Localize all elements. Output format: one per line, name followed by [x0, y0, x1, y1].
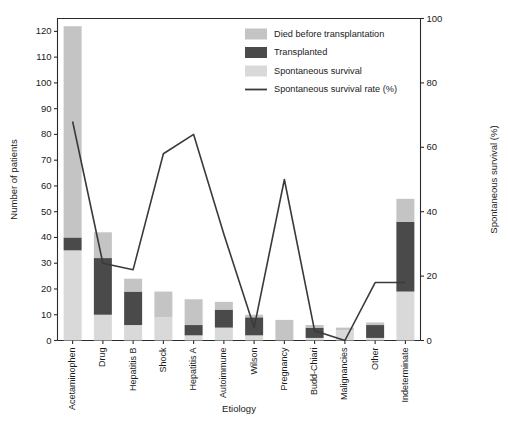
bar-segment	[94, 315, 112, 341]
y-axis-title-right: Spontaneous survival (%)	[488, 125, 499, 233]
x-ticklabel: Hepatitis A	[188, 348, 198, 391]
y-ticklabel-left: 20	[41, 283, 52, 294]
y-axis-title-left: Number of patients	[8, 139, 19, 220]
legend-label: Spontaneous survival rate (%)	[274, 84, 397, 94]
bar-segment	[215, 302, 233, 310]
legend-label: Transplanted	[274, 47, 327, 57]
bar-segment	[366, 325, 384, 338]
bar-segment	[185, 335, 203, 340]
legend-item: Transplanted	[245, 47, 327, 58]
bar-stack	[94, 232, 112, 340]
y-ticklabel-left: 40	[41, 231, 52, 242]
bar-segment	[396, 292, 414, 341]
y-ticklabel-left: 100	[36, 77, 52, 88]
bar-stack	[396, 199, 414, 341]
y-ticklabel-left: 80	[41, 128, 52, 139]
y-ticklabel-left: 30	[41, 257, 52, 268]
x-axis-title: Etiology	[222, 403, 256, 414]
y-axis-left: 0102030405060708090100110120	[36, 25, 58, 345]
bar-segment	[245, 335, 263, 340]
bar-segment	[94, 258, 112, 315]
x-ticklabel: Indeterminate	[400, 348, 410, 403]
bar-segment	[64, 250, 82, 340]
x-ticklabel: Drug	[97, 348, 107, 368]
y-ticklabel-left: 60	[41, 180, 52, 191]
bar-segment	[396, 222, 414, 292]
legend-item: Died before transplantation	[245, 29, 384, 40]
bar-stack	[124, 279, 142, 341]
bar-stack	[366, 322, 384, 340]
x-ticklabel: Hepatitis B	[128, 348, 138, 392]
y-ticklabel-right: 100	[427, 13, 443, 24]
legend-color-swatch	[245, 47, 267, 58]
bar-segment	[215, 310, 233, 328]
x-ticklabel: Other	[370, 348, 380, 371]
bar-segment	[396, 199, 414, 222]
plot-border	[58, 19, 421, 341]
x-ticklabel: Acetaminophen	[67, 348, 77, 411]
bar-segment	[124, 279, 142, 292]
bar-segment	[185, 325, 203, 335]
bar-stack	[154, 292, 172, 341]
y-ticklabel-left: 0	[46, 335, 51, 346]
x-ticklabel: Wilson	[249, 348, 259, 375]
legend-label: Spontaneous survival	[274, 66, 362, 76]
bar-stack	[185, 299, 203, 340]
x-ticklabel: Shock	[158, 347, 168, 373]
y-axis-right: 020406080100	[421, 13, 443, 346]
bar-segment	[245, 315, 263, 318]
x-ticklabel: Autoimmune	[218, 348, 228, 399]
bar-segment	[64, 26, 82, 237]
survival-rate-polyline	[73, 122, 406, 341]
bar-segment	[215, 328, 233, 341]
stacked-bar-chart: 0102030405060708090100110120 02040608010…	[0, 0, 508, 438]
y-ticklabel-right: 0	[427, 335, 432, 346]
y-ticklabel-right: 80	[427, 77, 438, 88]
legend-label: Died before transplantation	[274, 29, 384, 39]
bar-segment	[154, 292, 172, 318]
bar-segment	[124, 292, 142, 325]
bar-segment	[154, 317, 172, 340]
y-ticklabel-left: 50	[41, 206, 52, 217]
bar-segment	[124, 325, 142, 340]
legend-color-swatch	[245, 29, 267, 40]
bar-segment	[275, 320, 293, 341]
x-ticklabel: Malignancies	[339, 347, 349, 400]
bar-stack	[64, 26, 82, 340]
bar-stack	[215, 302, 233, 341]
y-ticklabel-left: 70	[41, 154, 52, 165]
figure-container: 0102030405060708090100110120 02040608010…	[0, 0, 508, 438]
y-ticklabel-left: 110	[36, 51, 51, 62]
bar-stack	[275, 320, 293, 341]
legend-item: Spontaneous survival	[245, 66, 362, 77]
survival-rate-line	[73, 122, 406, 341]
x-ticklabel: Budd-Chiari	[309, 348, 319, 396]
y-ticklabel-right: 20	[427, 270, 438, 281]
y-ticklabel-left: 90	[41, 103, 52, 114]
bar-segment	[185, 299, 203, 325]
y-ticklabel-left: 120	[36, 25, 52, 36]
bar-segment	[64, 237, 82, 250]
y-ticklabel-left: 10	[41, 309, 52, 320]
legend-color-swatch	[245, 66, 267, 77]
x-axis: AcetaminophenDrugHepatitis BShockHepatit…	[67, 341, 410, 411]
y-ticklabel-right: 60	[427, 141, 438, 152]
y-ticklabel-right: 40	[427, 206, 438, 217]
bar-segment	[366, 322, 384, 325]
legend-item: Spontaneous survival rate (%)	[245, 84, 397, 94]
bar-segment	[306, 338, 324, 341]
legend: Died before transplantationTransplantedS…	[245, 29, 397, 95]
plot-frame	[58, 19, 421, 341]
x-ticklabel: Pregnancy	[279, 347, 289, 391]
bar-segment	[366, 338, 384, 341]
